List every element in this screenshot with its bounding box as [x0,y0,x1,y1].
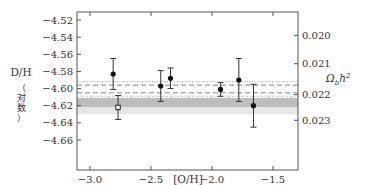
chart-container: −3.0−2.5−2.0−1.5 −4.52−4.54−4.56−4.58−4.… [0,0,370,185]
data-point [250,84,256,127]
y2-tick-label: 0.022 [302,89,331,100]
x-tick-label: −3.0 [78,174,102,185]
y-tick-label: −4.56 [42,49,73,60]
y2-axis-label: Ωbh2 [325,72,351,87]
reference-lines [77,82,298,97]
chart-svg: −3.0−2.5−2.0−1.5 −4.52−4.54−4.56−4.58−4.… [0,0,370,185]
y-tick-label: −4.58 [42,66,73,77]
reference-bands [77,98,298,114]
y-tick-label: −4.52 [42,15,73,26]
x-axis-label: [O/H] [173,173,203,185]
y2-tick-label: 0.020 [302,30,331,41]
y2-tick-label: 0.021 [302,58,331,69]
y-axis-label-sub: （对数） [17,83,26,123]
y-tick-label: −4.62 [42,100,73,111]
y-tick-label: −4.60 [42,83,73,94]
plot-frame [77,12,298,170]
y-axis-ticks: −4.52−4.54−4.56−4.58−4.60−4.62−4.64−4.66 [42,15,81,146]
data-point [236,59,242,102]
y2-tick-label: 0.023 [302,115,331,126]
x-tick-label: −1.5 [261,174,285,185]
band-0 [77,98,298,107]
y-tick-label: −4.54 [42,32,73,43]
y-tick-label: −4.66 [42,135,73,146]
y-tick-label: −4.64 [42,117,73,128]
y-axis-label: D/H [10,66,31,78]
data-point [158,71,164,102]
x-tick-label: −2.0 [200,174,224,185]
x-tick-label: −2.5 [139,174,163,185]
data-point [218,83,224,97]
band-1 [77,107,298,114]
